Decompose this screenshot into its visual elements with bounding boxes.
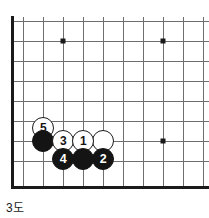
go-board[interactable]: 5 3 1 4 2 bbox=[0, 0, 209, 196]
stone-label: 2 bbox=[100, 152, 106, 165]
star-point bbox=[161, 39, 166, 44]
stone-black-2[interactable]: 2 bbox=[92, 148, 114, 170]
star-point bbox=[161, 139, 166, 144]
stone-black-4[interactable]: 4 bbox=[52, 148, 74, 170]
stone-label: 3 bbox=[60, 135, 66, 147]
stone-black-plain-a[interactable] bbox=[32, 130, 54, 152]
stone-black-plain-c[interactable] bbox=[72, 148, 94, 170]
diagram-caption: 3도 bbox=[6, 198, 24, 215]
go-diagram-figure: 5 3 1 4 2 3도 bbox=[0, 0, 209, 218]
star-point bbox=[61, 39, 66, 44]
stone-label: 4 bbox=[60, 152, 66, 165]
stone-label: 1 bbox=[80, 135, 86, 147]
